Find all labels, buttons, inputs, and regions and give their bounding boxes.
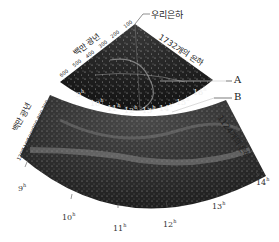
upper-ra-tick: 15h [176,96,189,107]
lower-ra-tick: 12h [163,218,176,229]
upper-ra-tick: 13h [142,104,155,115]
milky-way-label: 우리은하 [151,8,183,21]
wedge-diagram-svg [0,0,279,242]
lower-ra-tick: 9h [18,182,26,193]
upper-ra-tick: 11h [107,102,120,113]
lower-ra-tick: 13h [212,200,225,211]
callout-b: B [234,91,241,102]
upper-ra-tick: 12h [124,104,137,115]
lower-ra-tick: 14h [256,176,269,187]
lower-ra-tick: 11h [113,222,126,233]
upper-ra-tick: 14h [159,102,172,113]
upper-ra-tick: 9h [76,88,84,99]
upper-ra-tick: 16h [193,86,206,97]
galaxy-survey-diagram: 우리은하 A B 1732개의 은하 백만 광년 100 200 300 400… [0,0,279,242]
upper-ra-tick: 10h [90,97,103,108]
milky-way-leader [135,14,143,24]
callout-a: A [234,74,241,85]
lower-ra-tick: 10h [62,211,75,222]
